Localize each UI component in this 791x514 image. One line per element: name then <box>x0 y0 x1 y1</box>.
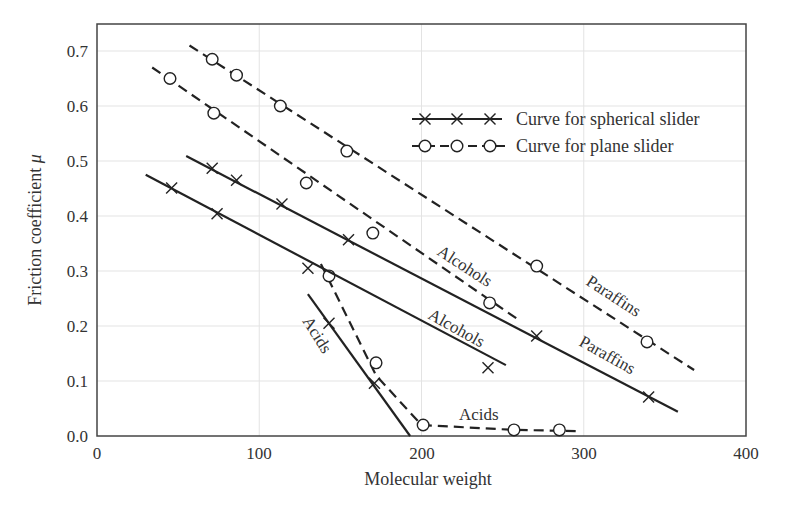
label-acids-plane: Acids <box>459 405 499 424</box>
mu-symbol: μ <box>25 154 45 164</box>
x-tick-label: 100 <box>246 444 272 463</box>
x-tick-label: 400 <box>733 444 759 463</box>
circle-marker <box>206 53 218 65</box>
circle-marker <box>301 177 313 189</box>
friction-chart: 0.0 0.1 0.2 0.3 0.4 0.5 0.6 0.7 0 100 20… <box>0 0 791 514</box>
y-tick-label: 0.4 <box>67 207 89 226</box>
circle-marker <box>419 140 431 152</box>
y-axis-ticks: 0.0 0.1 0.2 0.3 0.4 0.5 0.6 0.7 <box>67 42 89 446</box>
y-tick-label: 0.3 <box>67 262 88 281</box>
x-axis-ticks: 0 100 200 300 400 <box>93 444 759 463</box>
label-acids-spherical: Acids <box>299 313 336 357</box>
circle-marker <box>484 140 496 152</box>
label-paraffins-plane: Paraffins <box>583 271 645 320</box>
y-tick-label: 0.1 <box>67 372 88 391</box>
circle-marker <box>341 145 353 157</box>
circle-marker <box>417 419 429 431</box>
circle-marker <box>508 424 520 436</box>
data-series <box>146 46 694 437</box>
circle-marker <box>451 140 463 152</box>
x-tick-label: 200 <box>409 444 435 463</box>
circle-marker <box>367 227 379 239</box>
circle-marker <box>231 69 243 81</box>
series-acids-spherical <box>308 294 410 436</box>
label-paraffins-spherical: Paraffins <box>576 332 639 378</box>
circle-marker <box>484 297 496 309</box>
series-line <box>152 68 517 319</box>
label-alcohols-plane: Alcohols <box>434 241 496 290</box>
series-acids-plane <box>321 264 579 436</box>
circle-marker <box>275 100 287 112</box>
y-axis-title-text: Friction coefficient <box>25 163 45 306</box>
circle-marker-icon <box>419 140 496 152</box>
legend-item-spherical: Curve for spherical slider <box>412 109 699 129</box>
series-alcohols-plane <box>152 68 517 319</box>
x-tick-label: 300 <box>571 444 597 463</box>
x-axis-title: Molecular weight <box>364 469 491 489</box>
legend-label-plane: Curve for plane slider <box>516 136 673 156</box>
circle-marker <box>641 336 653 348</box>
y-tick-label: 0.5 <box>67 152 88 171</box>
x-tick-label: 0 <box>93 444 102 463</box>
legend: Curve for spherical slider Curve for pla… <box>412 109 699 156</box>
series-line <box>308 294 410 436</box>
y-tick-label: 0.0 <box>67 427 88 446</box>
legend-label-spherical: Curve for spherical slider <box>516 109 699 129</box>
circle-marker <box>370 357 382 369</box>
circle-marker <box>164 73 176 85</box>
grid-lines <box>97 24 746 436</box>
y-tick-label: 0.6 <box>67 97 88 116</box>
circle-marker <box>208 107 220 119</box>
legend-item-plane: Curve for plane slider <box>412 136 673 156</box>
circle-marker <box>531 260 543 272</box>
y-axis-title: Friction coefficient μ <box>25 154 45 306</box>
y-tick-label: 0.2 <box>67 317 88 336</box>
circle-marker <box>554 424 566 436</box>
y-tick-label: 0.7 <box>67 42 89 61</box>
